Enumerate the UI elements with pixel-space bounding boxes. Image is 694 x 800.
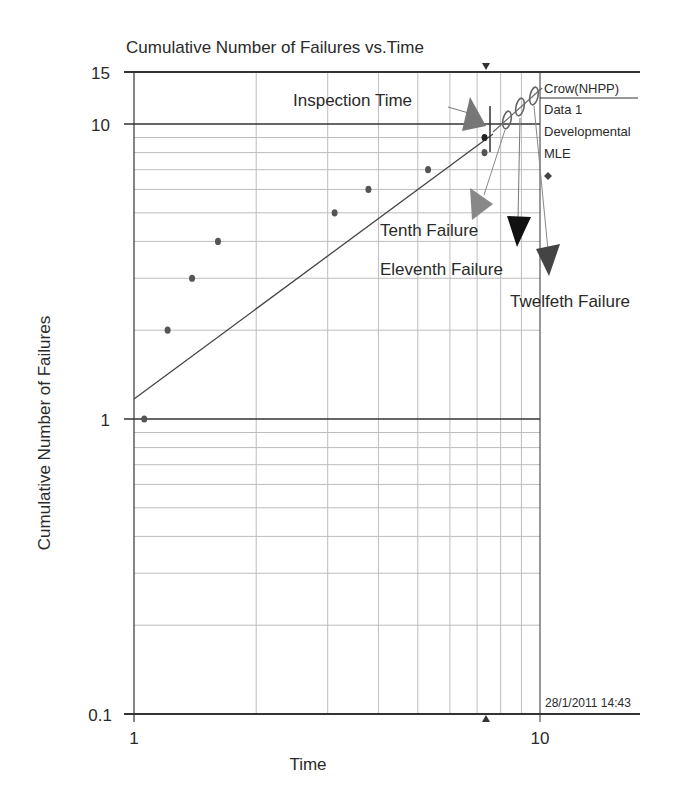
- legend-entry-data-1: Data 1: [544, 102, 582, 117]
- x-axis-label: Time: [289, 755, 326, 774]
- y-tick-0-1: 0.1: [88, 706, 112, 725]
- legend-entry-mle: MLE: [544, 146, 571, 161]
- inspection-arrow-icon: [462, 97, 486, 131]
- y-axis-label: Cumulative Number of Failures: [35, 316, 54, 550]
- legend-entry-crow-nhpp: Crow(NHPP): [544, 81, 619, 96]
- annotation-twelfth-failure: Twelfeth Failure: [510, 292, 630, 311]
- tenth-arrow-icon: [470, 188, 493, 220]
- twelfth-failure-ellipse: [528, 86, 540, 105]
- data-point: [482, 149, 488, 156]
- tenth-connector: [484, 130, 505, 195]
- y-tick-15: 15: [91, 64, 110, 83]
- data-point: [365, 186, 371, 193]
- gridlines: [134, 72, 540, 714]
- inspection-marker-bottom: [482, 715, 490, 722]
- inspection-marker-top: [482, 63, 490, 70]
- data-point: [215, 238, 221, 245]
- annotation-eleventh-failure: Eleventh Failure: [380, 260, 503, 279]
- legend-marker-diamond-icon: [544, 172, 552, 180]
- x-tick-1: 1: [129, 729, 138, 748]
- annotation-tenth-failure: Tenth Failure: [380, 221, 478, 240]
- data-point: [482, 134, 488, 141]
- legend-entry-developmental: Developmental: [544, 124, 631, 139]
- annotation-inspection-time: Inspection Time: [293, 91, 412, 110]
- chart-title: Cumulative Number of Failures vs.Time: [126, 38, 424, 57]
- failures-vs-time-chart: Cumulative Number of Failures vs.Time 15…: [0, 0, 694, 800]
- data-point: [141, 415, 147, 422]
- eleventh-connector: [518, 118, 520, 220]
- y-tick-1: 1: [101, 411, 110, 430]
- eleventh-arrow-icon: [507, 216, 531, 247]
- timestamp: 28/1/2011 14:43: [545, 696, 631, 710]
- x-tick-10: 10: [531, 729, 550, 748]
- data-point: [165, 327, 171, 334]
- data-point: [425, 166, 431, 173]
- y-tick-10: 10: [91, 116, 110, 135]
- data-point: [332, 209, 338, 216]
- legend: Crow(NHPP) Data 1 Developmental MLE: [544, 81, 631, 180]
- data-point: [189, 275, 195, 282]
